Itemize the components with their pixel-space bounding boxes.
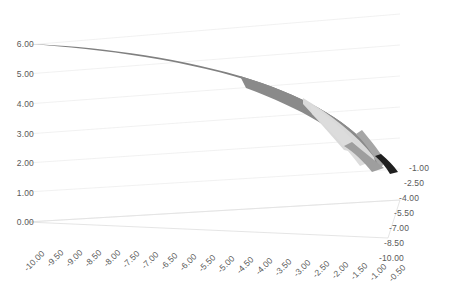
z-axis-tick-6: 6.00 [0, 39, 34, 49]
surface-chart: 6.00 5.00 4.00 3.00 2.00 1.00 0.00 -10.0… [0, 0, 452, 302]
z-axis-tick-3: 3.00 [0, 129, 34, 139]
y-axis-tick-2: -4.00 [399, 193, 437, 203]
y-axis-tick-5: -8.50 [384, 238, 422, 248]
y-axis-tick-3: -5.50 [394, 208, 432, 218]
surface-mesh [30, 44, 398, 174]
z-axis-tick-4: 4.00 [0, 99, 34, 109]
y-axis-tick-6: -10.00 [379, 253, 417, 263]
gridlines-group [27, 14, 400, 222]
y-axis-tick-4: -7.00 [389, 223, 427, 233]
floor-plane [27, 200, 400, 238]
z-axis-tick-1: 1.00 [0, 188, 34, 198]
y-axis-tick-0: -1.00 [409, 163, 447, 173]
y-axis-tick-1: -2.50 [404, 178, 442, 188]
surface-band-mid-gray [30, 44, 384, 161]
z-axis-tick-0: 0.00 [0, 217, 34, 227]
z-axis-tick-2: 2.00 [0, 158, 34, 168]
z-axis-tick-5: 5.00 [0, 69, 34, 79]
